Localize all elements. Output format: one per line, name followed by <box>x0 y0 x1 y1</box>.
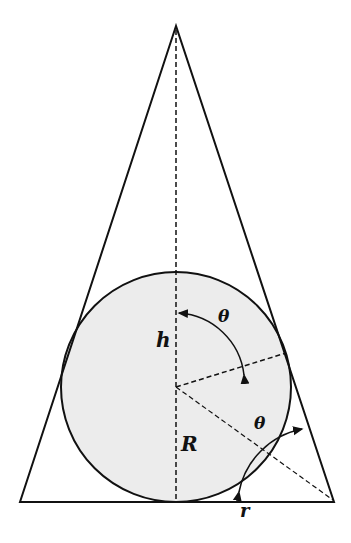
label-h: h <box>156 328 171 352</box>
label-R: R <box>181 432 198 456</box>
diagram-canvas: h θ R θ r <box>0 0 351 543</box>
cone-sphere-figure <box>0 0 351 543</box>
label-theta-bottom: θ <box>254 413 265 433</box>
label-r: r <box>240 500 249 521</box>
label-theta-top: θ <box>218 306 229 326</box>
